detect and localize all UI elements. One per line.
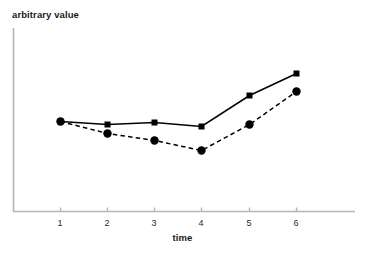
marker-circle-3 xyxy=(150,136,158,144)
marker-circle-5 xyxy=(245,120,253,128)
x-tick-label-4: 4 xyxy=(191,218,211,228)
marker-circle-2 xyxy=(103,129,111,137)
marker-square-5 xyxy=(247,93,253,99)
x-tick-label-2: 2 xyxy=(97,218,117,228)
chart-figure: arbitrary value time 123456 xyxy=(0,0,366,253)
marker-square-2 xyxy=(105,122,111,128)
marker-circle-4 xyxy=(197,146,205,154)
plot-area xyxy=(0,0,366,253)
marker-square-6 xyxy=(294,71,300,77)
x-axis-title: time xyxy=(173,232,193,243)
x-tick-label-1: 1 xyxy=(50,218,70,228)
y-axis-title: arbitrary value xyxy=(12,9,79,20)
x-tick-label-3: 3 xyxy=(144,218,164,228)
series-line-series-dashed xyxy=(61,92,297,151)
series-line-series-solid xyxy=(61,74,297,127)
x-tick-label-6: 6 xyxy=(286,218,306,228)
data-series xyxy=(56,71,300,155)
x-axis-title-wrap: time xyxy=(0,232,366,243)
marker-square-3 xyxy=(152,120,158,126)
marker-square-4 xyxy=(199,124,205,130)
marker-circle-1 xyxy=(56,117,64,125)
x-tick-label-5: 5 xyxy=(239,218,259,228)
marker-circle-6 xyxy=(292,87,300,95)
